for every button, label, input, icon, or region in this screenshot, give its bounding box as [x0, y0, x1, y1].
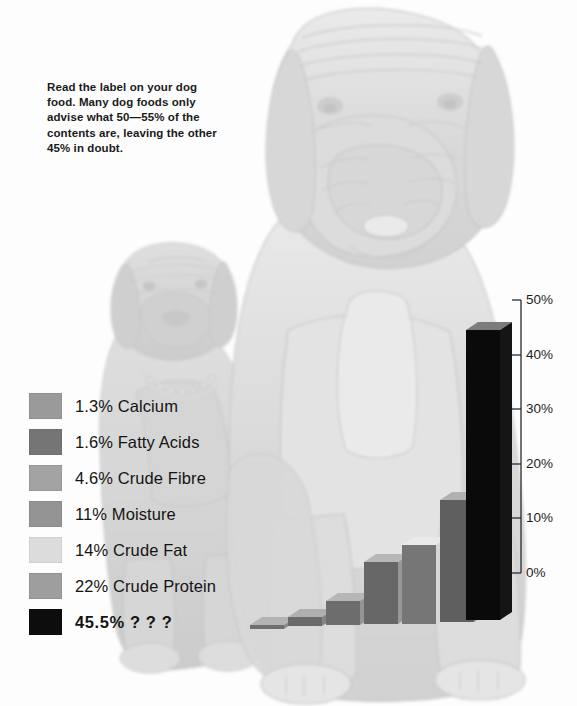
axis-tick-10: 10% [526, 510, 553, 525]
poster-canvas: Read the label on your dog food. Many do… [0, 0, 577, 706]
axis-tick-50: 50% [526, 292, 553, 307]
axis-tick-20: 20% [526, 456, 553, 471]
axis-tick-0: 0% [526, 565, 546, 580]
axis-tick-40: 40% [526, 347, 553, 362]
value-axis: 50% 40% 30% 20% 10% 0% [0, 0, 577, 706]
axis-tick-30: 30% [526, 401, 553, 416]
axis-line [512, 300, 521, 573]
